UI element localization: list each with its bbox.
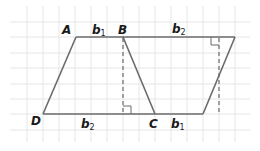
label-top-b2: b2 [172, 22, 186, 37]
label-bottom-b2: b2 [81, 117, 95, 132]
grid [10, 6, 250, 142]
vertex-label-C: C [149, 117, 158, 131]
right-angle-icon [211, 37, 219, 45]
label-top-b1: b1 [92, 23, 106, 38]
label-bottom-b1: b1 [171, 117, 185, 132]
diagram-canvas: A B C D b1 b2 b2 b1 [0, 0, 260, 151]
vertex-label-D: D [31, 114, 41, 128]
vertex-label-A: A [61, 23, 71, 37]
right-angle-icon [123, 106, 131, 114]
vertex-label-B: B [118, 23, 127, 37]
